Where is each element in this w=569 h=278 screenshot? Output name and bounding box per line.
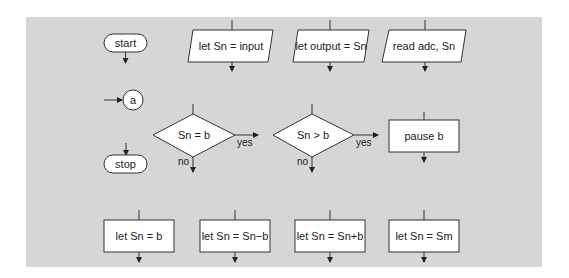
process-4-label: let Sn = Sm — [395, 230, 452, 242]
decision-2-label: Sn > b — [297, 129, 329, 141]
process-let-sn-b: let Sn = b — [104, 210, 174, 262]
process-let-sn-plus-b: let Sn = Sn+b — [295, 210, 365, 262]
decision-sn-greater-b: Sn > b yes no — [273, 104, 378, 172]
start-terminator: start — [104, 34, 147, 63]
decision-2-yes-label: yes — [356, 137, 372, 148]
process-let-sn-sm: let Sn = Sm — [389, 210, 459, 262]
output-let-output-sn: let output = Sn — [293, 20, 369, 71]
input-let-sn-input: let Sn = input — [188, 20, 273, 71]
input-1-label: let Sn = input — [199, 40, 264, 52]
decision-sn-equals-b: Sn = b yes no — [153, 104, 258, 172]
pause-label: pause b — [404, 130, 443, 142]
start-label: start — [115, 37, 136, 49]
decision-1-no-label: no — [178, 156, 190, 167]
decision-1-yes-label: yes — [237, 137, 253, 148]
connector-label: a — [130, 94, 137, 106]
flowchart: start let Sn = input let output = Sn rea… — [0, 0, 569, 278]
process-let-sn-minus-b: let Sn = Sn−b — [200, 210, 270, 262]
output-1-label: let output = Sn — [295, 40, 366, 52]
decision-1-label: Sn = b — [178, 129, 210, 141]
stop-label: stop — [115, 158, 136, 170]
connector-a: a — [104, 90, 143, 110]
process-2-label: let Sn = Sn−b — [202, 230, 269, 242]
process-1-label: let Sn = b — [116, 230, 163, 242]
stop-terminator: stop — [104, 143, 147, 173]
input-read-adc: read adc, Sn — [382, 20, 466, 71]
input-2-label: read adc, Sn — [393, 40, 455, 52]
decision-2-no-label: no — [297, 156, 309, 167]
process-3-label: let Sn = Sn+b — [297, 230, 364, 242]
process-pause-b: pause b — [389, 112, 459, 162]
